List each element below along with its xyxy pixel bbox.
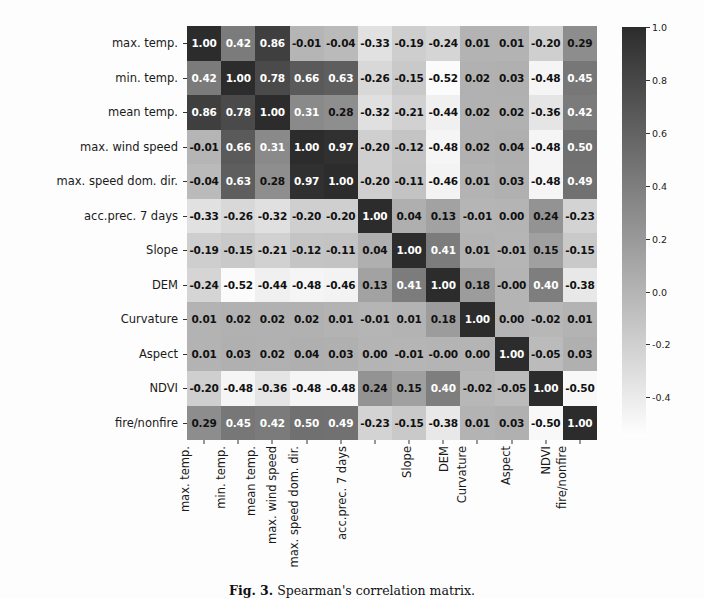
x-axis-label-slot: acc.prec. 7 days	[358, 440, 392, 555]
heatmap-cell: 1.00	[563, 406, 597, 441]
heatmap-cell: -0.01	[290, 26, 324, 61]
heatmap-cell: 0.50	[563, 130, 597, 165]
x-axis-label-group: max. temp.min. temp.mean temp.max. wind …	[187, 440, 597, 555]
heatmap-cell: -0.21	[255, 233, 289, 268]
heatmap-cell: 0.00	[460, 337, 494, 372]
figure-caption-text: Spearman's correlation matrix.	[277, 583, 475, 598]
heatmap-cell: -0.48	[426, 130, 460, 165]
heatmap-cell: -0.19	[392, 26, 426, 61]
heatmap-cell: 0.24	[529, 199, 563, 234]
heatmap-cell: 0.63	[221, 164, 255, 199]
heatmap-cell: 0.03	[221, 337, 255, 372]
x-axis-tick-label: NDVI	[538, 446, 552, 475]
colorbar-tick-label: 0.8	[652, 74, 667, 85]
heatmap-cell: 0.49	[563, 164, 597, 199]
heatmap-cell: 0.78	[221, 95, 255, 130]
heatmap-cell: 0.97	[324, 130, 358, 165]
heatmap-cell: 0.01	[187, 302, 221, 337]
y-axis-tick-label: acc.prec. 7 days	[0, 199, 183, 234]
heatmap-cell: -0.38	[563, 268, 597, 303]
heatmap-cell: 0.66	[221, 130, 255, 165]
heatmap-cell: -0.44	[255, 268, 289, 303]
heatmap-cell: 1.00	[392, 233, 426, 268]
x-axis-tick-label: mean temp.	[244, 446, 258, 516]
y-axis-tick-mark	[183, 319, 187, 320]
heatmap-cell: -0.20	[358, 164, 392, 199]
heatmap-cell: 0.50	[290, 406, 324, 441]
heatmap-cell: 1.00	[187, 26, 221, 61]
heatmap-cell: 0.01	[563, 302, 597, 337]
heatmap-cell: 1.00	[495, 337, 529, 372]
heatmap-cell: -0.26	[358, 61, 392, 96]
heatmap-cell: 0.45	[221, 406, 255, 441]
heatmap-cell: 0.01	[460, 164, 494, 199]
y-axis-tick-mark	[183, 112, 187, 113]
heatmap-cell: 0.40	[426, 371, 460, 406]
heatmap-cell: 0.02	[460, 130, 494, 165]
heatmap-cell: -0.50	[563, 371, 597, 406]
heatmap-cell: -0.15	[392, 61, 426, 96]
heatmap-cell: -0.21	[392, 95, 426, 130]
heatmap-cell: -0.19	[187, 233, 221, 268]
colorbar-tick-mark	[646, 80, 650, 81]
x-axis-tick-mark	[374, 440, 375, 444]
correlation-matrix-figure: max. temp.min. temp.mean temp.max. wind …	[0, 0, 704, 599]
heatmap-cell: -0.46	[426, 164, 460, 199]
heatmap-cell: -0.48	[529, 130, 563, 165]
heatmap-cell: 1.00	[324, 164, 358, 199]
colorbar-tick-label: 0.0	[652, 286, 667, 297]
heatmap-cell: -0.48	[290, 371, 324, 406]
heatmap-cell: 0.66	[290, 61, 324, 96]
y-axis-tick-mark	[183, 216, 187, 217]
heatmap-cell: 0.86	[255, 26, 289, 61]
heatmap-cell: -0.04	[324, 26, 358, 61]
heatmap-cell: -0.15	[392, 406, 426, 441]
heatmap-cell: 0.02	[255, 302, 289, 337]
x-axis-tick-label: acc.prec. 7 days	[335, 446, 349, 540]
colorbar-tick-label: 0.6	[652, 127, 667, 138]
heatmap-cell: -0.15	[563, 233, 597, 268]
heatmap-cell: 0.63	[324, 61, 358, 96]
x-axis-tick-mark	[511, 440, 512, 444]
heatmap-cell: 1.00	[358, 199, 392, 234]
x-axis-tick-mark	[340, 440, 341, 444]
colorbar-tick-label: -0.2	[652, 339, 671, 350]
heatmap-cell: 0.04	[392, 199, 426, 234]
heatmap-cell: 0.03	[495, 406, 529, 441]
heatmap-cell: 0.02	[460, 61, 494, 96]
heatmap-cell: -0.24	[187, 268, 221, 303]
heatmap-cell: 0.01	[187, 337, 221, 372]
heatmap-cell: 0.31	[290, 95, 324, 130]
heatmap-cell: 0.01	[460, 26, 494, 61]
colorbar-tick-mark	[646, 186, 650, 187]
colorbar-tick-label: -0.4	[652, 392, 671, 403]
heatmap-cell: 0.42	[255, 406, 289, 441]
colorbar-tick-mark	[646, 292, 650, 293]
colorbar-tick-label: 0.2	[652, 233, 667, 244]
heatmap-cell: -0.36	[255, 371, 289, 406]
heatmap-cell: 0.86	[187, 95, 221, 130]
heatmap-cell: 0.13	[426, 199, 460, 234]
heatmap-cell: -0.33	[187, 199, 221, 234]
y-axis-tick-mark	[183, 285, 187, 286]
x-axis-tick-label: fire/nonfire	[555, 446, 569, 509]
y-axis-tick-label: min. temp.	[0, 61, 183, 96]
heatmap-cell: -0.48	[290, 268, 324, 303]
heatmap-cell: 0.97	[290, 164, 324, 199]
colorbar-tick-mark	[646, 239, 650, 240]
x-axis-tick-mark	[306, 440, 307, 444]
heatmap-cell: 0.42	[563, 95, 597, 130]
y-axis-tick-label: max. wind speed	[0, 130, 183, 165]
heatmap-cell: 0.18	[426, 302, 460, 337]
y-axis-tick-mark	[183, 354, 187, 355]
x-axis-tick-label: min. temp.	[214, 446, 228, 509]
y-axis-tick-mark	[183, 423, 187, 424]
x-axis-tick-label: Aspect	[499, 446, 513, 485]
heatmap-cell: -0.05	[529, 337, 563, 372]
heatmap-cell: -0.26	[221, 199, 255, 234]
y-axis-tick-mark	[183, 388, 187, 389]
heatmap-cell: 0.41	[392, 268, 426, 303]
heatmap-cell: 0.42	[187, 61, 221, 96]
heatmap-cell: -0.52	[426, 61, 460, 96]
heatmap-cell: 0.00	[495, 302, 529, 337]
